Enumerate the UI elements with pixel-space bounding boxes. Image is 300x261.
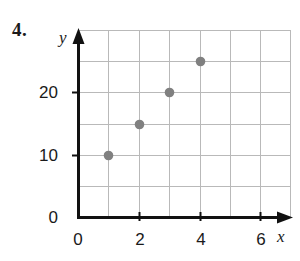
scatter-plot-figure: y x 20 10 0 0 2 4 6	[0, 0, 300, 261]
y-axis-label: y	[59, 29, 67, 46]
y-tick-label-10: 10	[28, 147, 58, 164]
data-point	[135, 120, 145, 130]
x-tick-label-2: 2	[128, 231, 152, 248]
data-point	[165, 88, 175, 98]
x-tick-label-6: 6	[249, 231, 273, 248]
y-tick-label-20: 20	[28, 84, 58, 101]
horizontal-gridlines	[78, 31, 291, 187]
x-tick-label-4: 4	[189, 231, 213, 248]
x-tick-label-0: 0	[66, 231, 90, 248]
y-tick-label-0: 0	[28, 209, 58, 226]
data-point-series	[104, 57, 206, 161]
worksheet-figure-page: 4.	[0, 0, 300, 261]
data-point	[104, 151, 114, 161]
y-axis	[73, 28, 85, 218]
data-point	[196, 57, 206, 67]
x-axis-label: x	[277, 228, 285, 245]
